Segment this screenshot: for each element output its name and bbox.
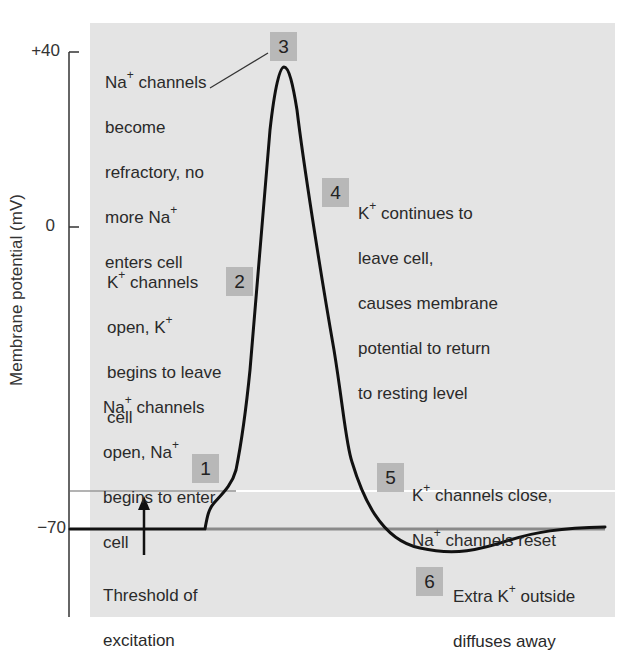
step-5-badge: 5 bbox=[377, 463, 404, 492]
step-5-text: K+ channels close, Na+ channels reset bbox=[412, 462, 556, 575]
step3-leader-line bbox=[210, 53, 268, 88]
step-2-badge: 2 bbox=[226, 267, 253, 296]
y-tick-label-plus40: +40 bbox=[0, 41, 60, 61]
step-1-text: Na+ channels open, Na+ begins to enter c… bbox=[103, 374, 215, 577]
step-4-badge: 4 bbox=[322, 178, 349, 207]
y-tick-label-zero: 0 bbox=[0, 216, 55, 236]
threshold-label: Threshold of excitation bbox=[103, 562, 198, 654]
y-tick-label-minus70: −70 bbox=[6, 518, 66, 538]
step-6-text: Extra K+ outside diffuses away bbox=[453, 563, 575, 654]
step-6-badge: 6 bbox=[416, 567, 443, 596]
step-3-badge: 3 bbox=[270, 32, 297, 61]
step-4-text: K+ continues to leave cell, causes membr… bbox=[358, 180, 498, 428]
